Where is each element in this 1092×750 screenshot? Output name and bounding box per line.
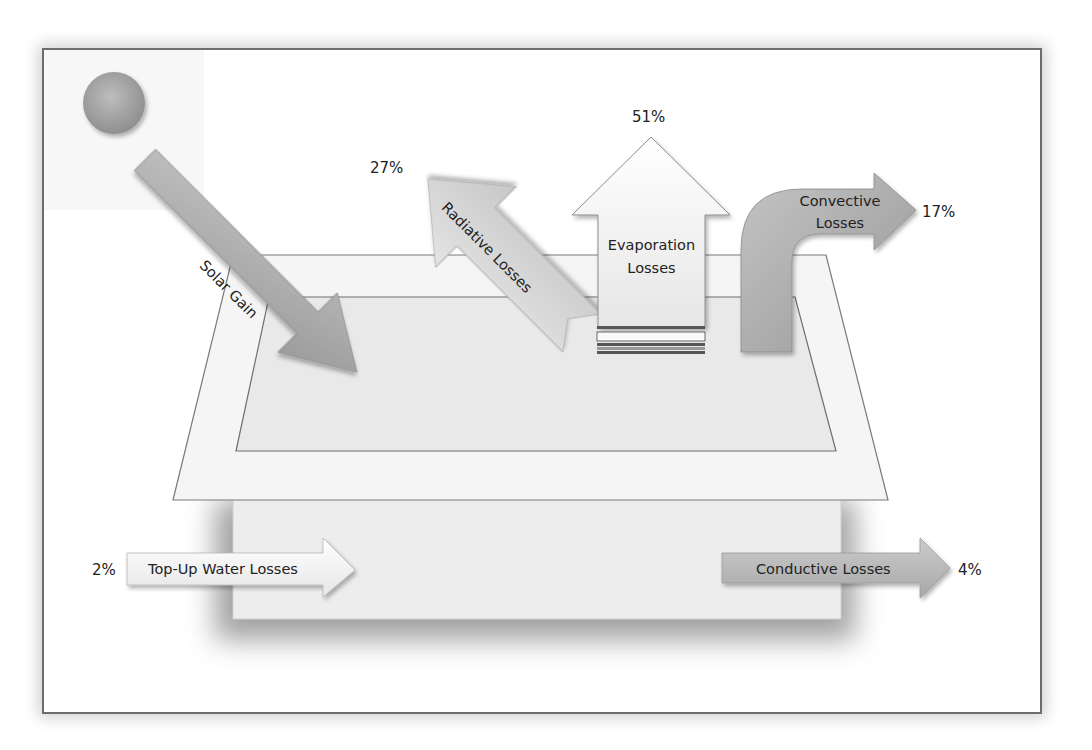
- radiative-percent: 27%: [370, 159, 403, 177]
- sun-circle-icon: [83, 72, 145, 134]
- convective-label-line1: Convective: [790, 190, 890, 212]
- evaporation-label-line2: Losses: [598, 257, 705, 279]
- convective-label-line2: Losses: [790, 212, 890, 234]
- conductive-percent: 4%: [958, 561, 982, 579]
- convective-percent: 17%: [922, 203, 955, 221]
- pool-heat-diagram: [0, 0, 1092, 750]
- top-up-percent: 2%: [92, 561, 116, 579]
- top-up-water-label: Top-Up Water Losses: [148, 558, 298, 580]
- conductive-losses-label: Conductive Losses: [756, 558, 891, 580]
- evaporation-percent: 51%: [632, 108, 665, 126]
- evaporation-label-line1: Evaporation: [598, 234, 705, 256]
